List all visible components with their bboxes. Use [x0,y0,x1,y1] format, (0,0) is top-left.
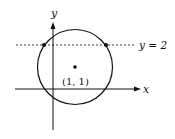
x-axis-label: x [143,83,150,96]
center-label: (1, 1) [62,76,89,87]
intersection-point-right [104,43,108,47]
x-axis-arrow-icon [134,87,141,92]
line-label: y = 2 [138,39,167,51]
diagram-canvas: y x (1, 1) y = 2 [0,0,175,139]
circle-center-point [73,65,77,69]
intersection-point-left [42,43,46,47]
y-axis-arrow-icon [51,22,56,29]
y-axis-label: y [50,7,58,20]
